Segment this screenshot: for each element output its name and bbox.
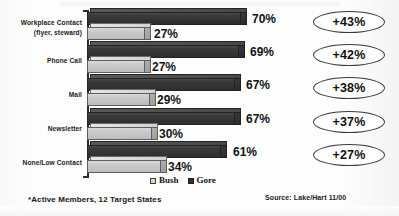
value-label-gore-workplace-contact: 70% <box>252 13 276 25</box>
legend-swatch-gore-icon <box>188 178 194 184</box>
bar-front-face <box>87 60 148 73</box>
bar-side-face <box>238 45 245 58</box>
legend-label-bush: Bush <box>159 176 179 185</box>
category-label-line: Phone Call <box>2 56 82 66</box>
chart-page: Workplace Contact (flyer, steward) 70% 2… <box>0 0 399 216</box>
legend-label-gore: Gore <box>197 176 216 185</box>
bar-side-face <box>151 127 158 140</box>
bar-bush-newsletter[interactable] <box>87 127 155 140</box>
bar-side-face <box>144 27 151 40</box>
value-label-gore-none-low-contact: 61% <box>233 146 257 158</box>
value-label-bush-phone-call: 27% <box>152 61 176 73</box>
category-label-newsletter: Newsletter <box>2 124 82 134</box>
margin-value: +38% <box>332 82 365 95</box>
bar-front-face <box>87 127 155 140</box>
margin-value: +37% <box>332 116 365 129</box>
legend-swatch-bush-icon <box>150 178 156 184</box>
value-label-gore-mail: 67% <box>246 79 270 91</box>
bar-bush-none-low-contact[interactable] <box>87 160 164 173</box>
margin-callout-phone-call: +42% <box>313 44 385 66</box>
bar-side-face <box>240 12 247 25</box>
margin-value: +42% <box>332 49 365 62</box>
margin-callout-newsletter: +37% <box>313 111 385 133</box>
bar-front-face <box>87 27 148 40</box>
value-label-bush-none-low-contact: 34% <box>168 161 192 173</box>
chart-source: Source: Lake/Hart 11/00 <box>265 194 346 201</box>
bar-front-face <box>87 93 153 106</box>
margin-callout-mail: +38% <box>313 77 385 99</box>
value-label-bush-workplace-contact: 27% <box>154 28 178 40</box>
bar-bush-workplace-contact[interactable] <box>87 27 148 40</box>
axis-tick-bottom <box>83 176 89 178</box>
bar-side-face <box>149 93 156 106</box>
category-label-phone-call: Phone Call <box>2 56 82 66</box>
category-label-workplace-contact: Workplace Contact (flyer, steward) <box>2 18 82 37</box>
margin-value: +27% <box>332 149 365 162</box>
category-label-none-low-contact: None/Low Contact <box>2 158 82 168</box>
margin-callout-none-low-contact: +27% <box>313 144 385 166</box>
category-label-line: (flyer, steward) <box>2 28 82 38</box>
bar-bush-phone-call[interactable] <box>87 60 148 73</box>
category-label-line: Workplace Contact <box>2 18 82 28</box>
bar-side-face <box>160 160 167 173</box>
chart-footnote: *Active Members, 12 Target States <box>28 195 161 204</box>
bar-side-face <box>144 60 151 73</box>
chart-legend: Bush Gore <box>150 176 216 185</box>
category-label-line: Newsletter <box>2 124 82 134</box>
value-label-bush-mail: 29% <box>157 94 181 106</box>
value-label-gore-newsletter: 67% <box>246 113 270 125</box>
bar-side-face <box>234 112 241 125</box>
value-label-gore-phone-call: 69% <box>250 46 274 58</box>
value-label-bush-newsletter: 30% <box>159 128 183 140</box>
margin-callout-workplace-contact: +43% <box>313 11 385 33</box>
bar-bush-mail[interactable] <box>87 93 153 106</box>
bar-side-face <box>220 145 227 158</box>
legend-item-bush: Bush <box>150 176 179 185</box>
category-label-line: None/Low Contact <box>2 158 82 168</box>
scan-artifact-bottom <box>0 206 399 216</box>
margin-value: +43% <box>332 16 365 29</box>
bar-front-face <box>87 160 164 173</box>
bar-side-face <box>234 78 241 91</box>
category-label-line: Mail <box>2 90 82 100</box>
plot-area: Workplace Contact (flyer, steward) 70% 2… <box>0 4 399 180</box>
category-label-mail: Mail <box>2 90 82 100</box>
legend-item-gore: Gore <box>188 176 216 185</box>
